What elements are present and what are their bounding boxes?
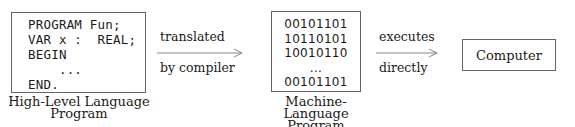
machine-code: 00101101 10110101 10010110 ... 00101101 (272, 17, 360, 90)
caption-line: Program (0, 108, 158, 120)
arrow-right-icon (155, 47, 247, 59)
caption-line: Machine-Language (253, 96, 379, 120)
arrow-right-icon (374, 47, 442, 59)
code-line: BEGIN (28, 47, 136, 62)
code-line: 00101101 (272, 17, 360, 32)
caption-line: Program (253, 120, 379, 127)
code-line: 10010110 (272, 46, 360, 61)
arrow1-label-top: translated (160, 29, 225, 44)
high-level-program-box: PROGRAM Fun;VAR x : REAL;BEGIN ...END. (11, 12, 146, 93)
machine-language-caption: Machine-Language Program (253, 96, 379, 127)
code-line: ... (28, 62, 136, 77)
code-line: PROGRAM Fun; (28, 17, 136, 32)
code-line: END. (28, 77, 136, 92)
computer-box: Computer (462, 39, 556, 71)
arrow2-label-bottom: directly (379, 60, 427, 75)
arrow1-label-bottom: by compiler (160, 60, 235, 75)
code-line: 00101101 (272, 75, 360, 90)
code-line: 10110101 (272, 32, 360, 47)
arrow2-label-top: executes (379, 29, 435, 44)
machine-language-program-box: 00101101 10110101 10010110 ... 00101101 (271, 11, 361, 92)
code-line: ... (272, 61, 360, 76)
high-level-caption: High-Level Language Program (0, 96, 158, 120)
computer-label: Computer (476, 48, 542, 63)
code-line: VAR x : REAL; (28, 32, 136, 47)
high-level-code: PROGRAM Fun;VAR x : REAL;BEGIN ...END. (28, 17, 136, 92)
